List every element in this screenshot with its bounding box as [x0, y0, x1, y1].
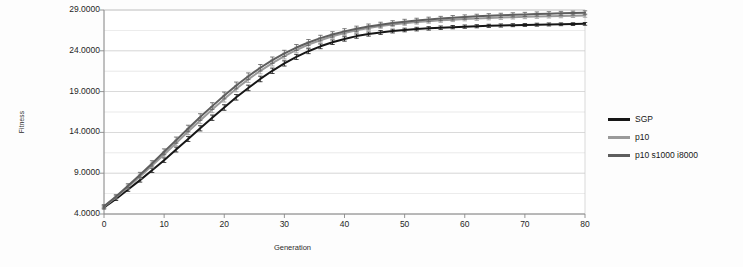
- legend-item[interactable]: p10: [608, 128, 740, 146]
- x-axis-title: Generation: [0, 243, 585, 252]
- y-axis-tick-label: 9.0000: [46, 167, 100, 177]
- x-axis-tick-label: 40: [330, 219, 360, 229]
- x-axis-tick-label: 30: [269, 219, 299, 229]
- legend-swatch-icon: [608, 154, 630, 157]
- x-axis-tick-label: 60: [450, 219, 480, 229]
- legend-item-label: SGP: [635, 114, 653, 124]
- y-axis-tick-label: 24.0000: [46, 45, 100, 55]
- x-axis-tick-label: 80: [570, 219, 600, 229]
- y-axis-title: Fitness: [18, 92, 25, 152]
- legend-item[interactable]: p10 s1000 i8000: [608, 146, 740, 164]
- x-axis-tick-label: 10: [149, 219, 179, 229]
- legend-swatch-icon: [608, 118, 630, 121]
- legend-item[interactable]: SGP: [608, 110, 740, 128]
- x-axis-tick-label: 0: [89, 219, 119, 229]
- y-axis-tick-label: 14.0000: [46, 126, 100, 136]
- chart-legend: SGPp10p10 s1000 i8000: [608, 110, 740, 164]
- legend-item-label: p10 s1000 i8000: [635, 150, 698, 160]
- chart-container: Fitness 29.000024.000019.000014.00009.00…: [0, 0, 743, 267]
- y-axis-tick-label: 4.0000: [46, 208, 100, 218]
- legend-item-label: p10: [635, 132, 649, 142]
- x-axis-tick-label: 20: [209, 219, 239, 229]
- x-axis-tick-label: 50: [390, 219, 420, 229]
- y-axis-tick-label: 29.0000: [46, 4, 100, 14]
- y-axis-tick-label: 19.0000: [46, 86, 100, 96]
- x-axis-tick-label: 70: [510, 219, 540, 229]
- legend-swatch-icon: [608, 136, 630, 139]
